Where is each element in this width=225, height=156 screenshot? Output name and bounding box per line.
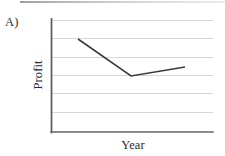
x-axis-title: Year: [121, 139, 144, 152]
y-axis-title: Profit: [32, 60, 45, 89]
profit-line-series: [78, 39, 185, 76]
figure-container: A) Profit Year: [0, 0, 225, 156]
